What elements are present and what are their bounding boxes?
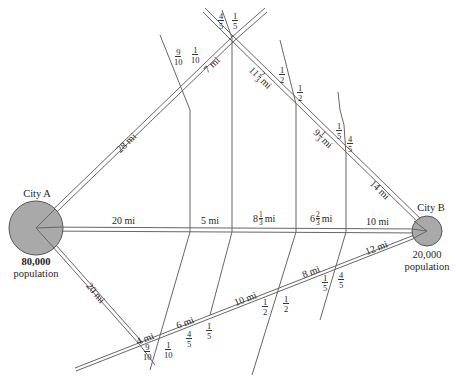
fraction-4-5-low: 45 — [186, 330, 192, 348]
main-road-label-10mi: 10 mi — [366, 217, 389, 227]
mixed-fraction: 23 — [316, 211, 320, 226]
fraction-num: 1 — [192, 46, 198, 55]
fraction-den: 10 — [191, 55, 200, 64]
city-b-name: City B — [408, 202, 454, 214]
fraction-num: 1 — [322, 274, 328, 283]
fraction-den: 10 — [143, 352, 152, 361]
fraction-den: 5 — [337, 131, 341, 140]
fraction-den: 2 — [263, 307, 267, 316]
fraction-num: 1 — [165, 341, 171, 350]
fraction-den: 3 — [259, 219, 263, 226]
mixed-unit: mi — [322, 213, 333, 224]
mixed-unit: mi — [265, 213, 276, 224]
fraction-den: 10 — [164, 350, 173, 359]
fraction-num: 1 — [283, 295, 289, 304]
fraction-1-5-upper: 15 — [336, 122, 342, 140]
city-b-population: 20,000 population — [396, 249, 457, 273]
fraction-4-5-apex: 45 — [218, 12, 224, 30]
city-a-population-label: population — [0, 268, 72, 280]
fraction-num: 4 — [347, 135, 353, 144]
mixed-whole: 8 — [253, 213, 258, 224]
fraction-1-2-upper-a: 12 — [279, 66, 285, 84]
fraction-1-5-low: 15 — [206, 322, 212, 340]
fraction-num: 1 — [206, 322, 212, 331]
fraction-den: 5 — [219, 21, 223, 30]
fraction-num: 4 — [338, 271, 344, 280]
fraction-1-2-low-b: 12 — [283, 295, 289, 313]
city-b-population-label: population — [396, 261, 457, 273]
main-road-label-20mi: 20 mi — [112, 216, 135, 226]
fraction-num: 4 — [218, 12, 224, 21]
fraction-num: 1 — [297, 84, 303, 93]
fraction-num: 1 — [336, 122, 342, 131]
main-road-label-8-1-3mi: 8 13 mi — [253, 211, 275, 226]
fraction-den: 2 — [298, 93, 302, 102]
fraction-den: 5 — [207, 331, 211, 340]
fraction-4-5-low-b: 45 — [338, 271, 344, 289]
fraction-num: 1 — [262, 298, 268, 307]
roads — [36, 8, 426, 371]
fraction-den: 5 — [348, 144, 352, 153]
fraction-1-2-upper-b: 12 — [297, 84, 303, 102]
main-road-label-6-2-3mi: 6 23 mi — [310, 211, 332, 226]
fraction-num: 9 — [175, 48, 181, 57]
fraction-4-5-upper: 45 — [347, 135, 353, 153]
fraction-1-5-apex: 15 — [232, 12, 238, 30]
fraction-num: 9 — [144, 343, 150, 352]
mixed-fraction: 13 — [259, 211, 263, 226]
city-b-population-value: 20,000 — [396, 249, 457, 261]
fraction-den: 3 — [316, 219, 320, 226]
fraction-9-10-top: 910 — [174, 48, 183, 66]
fraction-den: 5 — [323, 283, 327, 292]
fraction-1-10-low: 110 — [164, 341, 173, 359]
city-a-population: 80,000 population — [0, 256, 72, 280]
mixed-whole: 6 — [310, 213, 315, 224]
city-a-name: City A — [12, 188, 62, 200]
fraction-1-5-low-b: 15 — [322, 274, 328, 292]
fraction-num: 4 — [186, 330, 192, 339]
city-a-population-value: 80,000 — [0, 256, 72, 268]
fraction-1-10-top: 110 — [191, 46, 200, 64]
fraction-den: 5 — [339, 280, 343, 289]
fraction-9-10-low: 910 — [143, 343, 152, 361]
fraction-den: 2 — [280, 75, 284, 84]
main-road-label-5mi: 5 mi — [201, 216, 219, 226]
fraction-1-2-low-a: 12 — [262, 298, 268, 316]
fraction-num: 1 — [279, 66, 285, 75]
fraction-den: 5 — [187, 339, 191, 348]
fraction-den: 5 — [233, 21, 237, 30]
fraction-den: 10 — [174, 57, 183, 66]
fraction-den: 2 — [284, 304, 288, 313]
fraction-num: 1 — [232, 12, 238, 21]
